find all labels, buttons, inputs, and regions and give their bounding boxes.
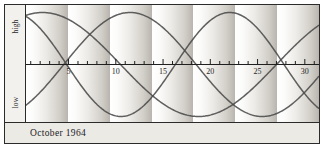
x-axis-tick-label: 10	[112, 67, 120, 76]
y-axis-label-gutter: high low	[5, 5, 26, 122]
figure-frame: high low 51015202530 October 1964	[4, 4, 320, 144]
y-axis-low-label: low	[11, 97, 20, 109]
x-axis-tick-label: 5	[67, 67, 71, 76]
y-axis-high-label: high	[11, 19, 20, 33]
plot-area: 51015202530	[26, 5, 319, 122]
x-axis-tick-label: 30	[301, 67, 309, 76]
x-axis-tick-label: 20	[206, 67, 214, 76]
x-axis-tick-label: 25	[254, 67, 262, 76]
biorhythm-figure: high low 51015202530 October 1964	[0, 0, 326, 155]
plot-region: high low 51015202530	[5, 5, 319, 122]
caption-bar: October 1964	[5, 122, 319, 143]
curves-svg: 51015202530	[26, 5, 319, 122]
x-axis-tick-label: 15	[159, 67, 167, 76]
caption-label: October 1964	[30, 128, 86, 138]
